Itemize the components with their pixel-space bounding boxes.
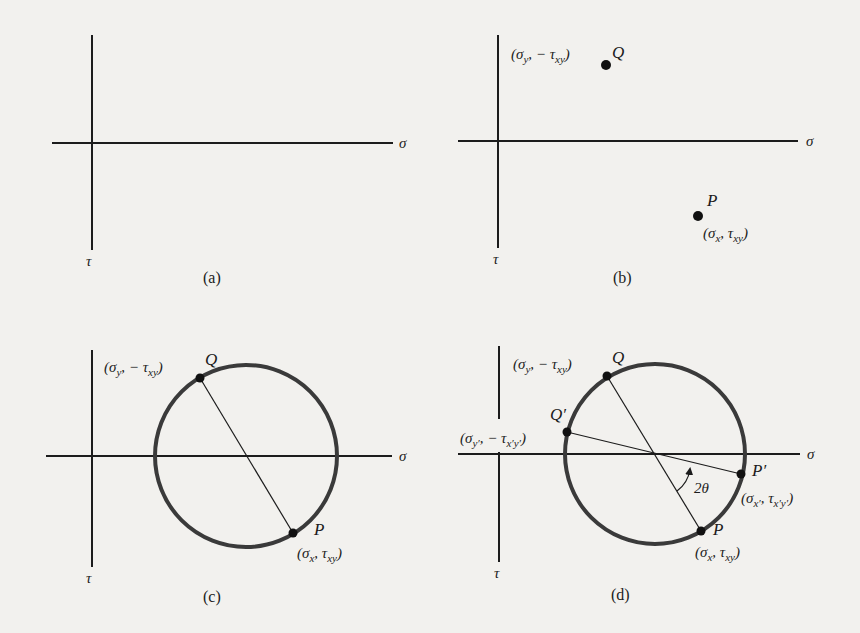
panel-d: σ τ 2θ Q (σy, − τxy) Q′ (σy′, − τx′y′) P… bbox=[458, 346, 815, 604]
panel-caption-b: (b) bbox=[613, 269, 632, 287]
tau-axis-label: τ bbox=[86, 570, 92, 586]
tau-axis-label: τ bbox=[86, 253, 92, 269]
point-p-prime-label: P′ bbox=[751, 461, 766, 480]
point-p-coords: (σx, τxy) bbox=[703, 225, 748, 244]
point-p-label: P bbox=[313, 520, 324, 539]
point-q-label: Q bbox=[612, 348, 624, 367]
point-q-coords: (σy, − τxy) bbox=[511, 46, 570, 65]
panel-b: σ τ Q (σy, − τxy) P (σx, τxy) (b) bbox=[458, 35, 814, 287]
tau-axis-label: τ bbox=[493, 251, 499, 267]
panel-caption-d: (d) bbox=[611, 586, 630, 604]
mohrs-circle-figure: σ τ (a) σ τ Q (σy, − τxy) P (σx, τxy) (b… bbox=[0, 0, 860, 633]
point-p-label: P bbox=[712, 520, 723, 539]
point-p-coords: (σx, τxy) bbox=[297, 545, 342, 564]
panel-c: σ τ Q (σy, − τxy) P (σx, τxy) (c) bbox=[46, 350, 407, 606]
point-q bbox=[601, 60, 611, 70]
rotation-angle-arc bbox=[677, 469, 690, 491]
sigma-axis-label: σ bbox=[807, 446, 815, 462]
point-p-coords: (σx, τxy) bbox=[695, 544, 740, 563]
point-q bbox=[196, 374, 205, 383]
point-p-prime-coords: (σx′, τx′y′) bbox=[741, 490, 793, 509]
point-q-coords: (σy, − τxy) bbox=[513, 356, 572, 375]
angle-label: 2θ bbox=[694, 480, 710, 496]
sigma-axis-label: σ bbox=[399, 135, 407, 151]
sigma-axis-label: σ bbox=[399, 448, 407, 464]
panel-caption-a: (a) bbox=[203, 269, 221, 287]
point-q-prime-coords: (σy′, − τx′y′) bbox=[460, 430, 526, 449]
point-q-prime-label: Q′ bbox=[550, 405, 566, 424]
point-p bbox=[693, 211, 703, 221]
point-q-coords: (σy, − τxy) bbox=[104, 359, 163, 378]
point-p-label: P bbox=[706, 191, 717, 210]
point-p bbox=[289, 529, 298, 538]
sigma-axis-label: σ bbox=[806, 133, 814, 149]
point-p-prime bbox=[737, 470, 746, 479]
point-q-label: Q bbox=[612, 43, 624, 62]
point-q-label: Q bbox=[205, 350, 217, 369]
point-q bbox=[603, 372, 612, 381]
tau-axis-label: τ bbox=[494, 565, 500, 581]
panel-a: σ τ (a) bbox=[52, 35, 407, 287]
panel-caption-c: (c) bbox=[203, 588, 221, 606]
point-q-prime bbox=[563, 428, 572, 437]
point-p bbox=[697, 527, 706, 536]
